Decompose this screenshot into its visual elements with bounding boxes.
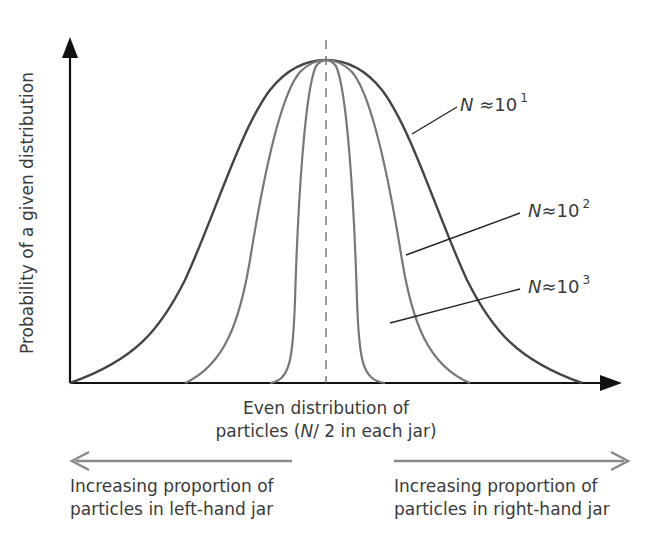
y-axis-label: Probability of a given distribution: [17, 72, 37, 354]
curve-n-10-2: [185, 60, 470, 383]
x-axis-label: Even distribution of particles (N/ 2 in …: [215, 397, 436, 443]
right-jar-note: Increasing proportion of particles in ri…: [394, 475, 610, 521]
y-axis-arrowhead-icon: [62, 37, 78, 58]
leader-line-n-10-2: [406, 213, 520, 255]
diagram-canvas: [0, 0, 664, 543]
x-axis-label-line1: Even distribution of: [215, 397, 436, 420]
label-n-10-1: N ≈101: [460, 94, 528, 115]
x-axis-arrowhead-icon: [600, 375, 622, 391]
curve-n-10-3: [270, 60, 385, 383]
x-axis-label-line2: particles (N/ 2 in each jar): [215, 420, 436, 443]
label-n-10-2: N≈102: [528, 200, 590, 221]
label-n-10-3: N≈103: [528, 276, 590, 297]
leader-line-n-10-1: [412, 107, 457, 134]
left-jar-note: Increasing proportion of particles in le…: [70, 475, 274, 521]
